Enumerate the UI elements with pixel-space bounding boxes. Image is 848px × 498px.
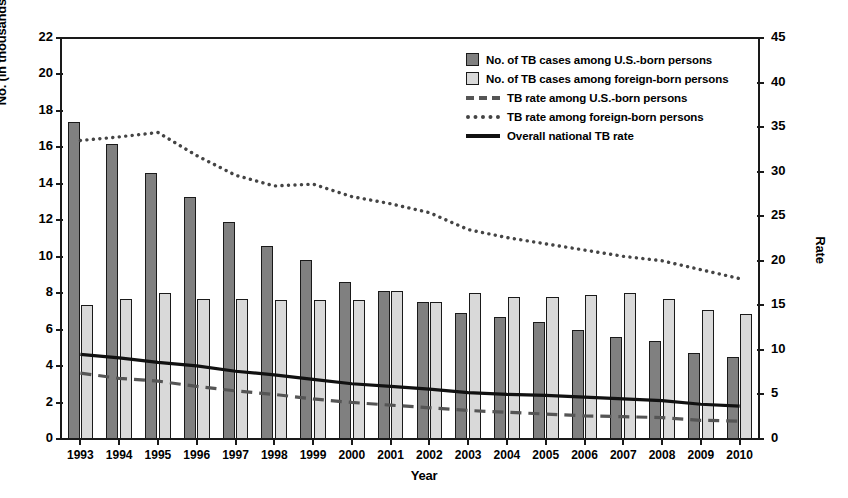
x-tick-mark bbox=[622, 438, 624, 445]
y-tick-mark-left bbox=[56, 365, 63, 367]
x-tick-mark bbox=[506, 438, 508, 445]
bar-foreign-born bbox=[663, 299, 675, 439]
y-tick-mark-right bbox=[757, 215, 764, 217]
legend-item-foreign-born-rate: TB rate among foreign-born persons bbox=[466, 107, 758, 126]
y-tick-label-right: 5 bbox=[771, 385, 805, 400]
y-tick-label-left: 22 bbox=[19, 29, 53, 44]
y-tick-label-right: 15 bbox=[771, 296, 805, 311]
bar-foreign-born bbox=[624, 293, 636, 439]
y-tick-label-right: 20 bbox=[771, 252, 805, 267]
y-tick-label-left: 20 bbox=[19, 65, 53, 80]
y-tick-label-left: 0 bbox=[19, 430, 53, 445]
y-tick-mark-right bbox=[757, 393, 764, 395]
y-tick-mark-left bbox=[56, 402, 63, 404]
bar-us-born bbox=[145, 173, 157, 439]
legend-label: TB rate among U.S.-born persons bbox=[507, 92, 687, 104]
x-tick-mark bbox=[739, 438, 741, 445]
legend-item-us-born-rate: TB rate among U.S.-born persons bbox=[466, 88, 758, 107]
bar-foreign-born bbox=[236, 299, 248, 439]
y-tick-label-left: 14 bbox=[19, 175, 53, 190]
chart-legend: No. of TB cases among U.S.-born persons … bbox=[466, 50, 758, 145]
y-axis-left-title: No. (in thousands) bbox=[0, 0, 9, 150]
y-tick-label-left: 2 bbox=[19, 394, 53, 409]
y-tick-label-right: 0 bbox=[771, 430, 805, 445]
y-tick-mark-right bbox=[757, 349, 764, 351]
bar-foreign-born bbox=[353, 300, 365, 439]
legend-label: TB rate among foreign-born persons bbox=[507, 111, 704, 123]
bar-foreign-born bbox=[585, 295, 597, 439]
y-tick-mark-left bbox=[56, 37, 63, 39]
y-tick-mark-left bbox=[56, 438, 63, 440]
bar-us-born bbox=[688, 353, 700, 439]
legend-swatch-dark-icon bbox=[466, 53, 479, 66]
y-tick-label-right: 30 bbox=[771, 163, 805, 178]
y-tick-label-left: 12 bbox=[19, 211, 53, 226]
y-tick-label-left: 6 bbox=[19, 321, 53, 336]
bar-us-born bbox=[494, 317, 506, 439]
x-tick-mark bbox=[661, 438, 663, 445]
x-tick-mark bbox=[351, 438, 353, 445]
bar-us-born bbox=[261, 246, 273, 439]
x-tick-label: 2010 bbox=[717, 448, 763, 462]
bar-foreign-born bbox=[314, 300, 326, 439]
tb-cases-and-rates-chart: No. (in thousands) Rate Year 22201816141… bbox=[0, 0, 848, 498]
bar-foreign-born bbox=[81, 305, 93, 439]
legend-item-overall-rate: Overall national TB rate bbox=[466, 126, 758, 145]
y-tick-label-right: 45 bbox=[771, 29, 805, 44]
y-tick-label-left: 4 bbox=[19, 357, 53, 372]
x-tick-mark bbox=[390, 438, 392, 445]
bar-us-born bbox=[455, 313, 467, 439]
y-tick-mark-left bbox=[56, 73, 63, 75]
y-tick-mark-right bbox=[757, 126, 764, 128]
y-tick-mark-left bbox=[56, 110, 63, 112]
bar-us-born bbox=[378, 291, 390, 439]
x-tick-mark bbox=[118, 438, 120, 445]
bar-us-born bbox=[339, 282, 351, 439]
legend-dotted-line-icon bbox=[466, 110, 500, 123]
y-tick-label-left: 18 bbox=[19, 102, 53, 117]
bar-foreign-born bbox=[702, 310, 714, 439]
y-tick-label-right: 25 bbox=[771, 207, 805, 222]
bar-us-born bbox=[223, 222, 235, 439]
x-tick-mark bbox=[312, 438, 314, 445]
legend-dashed-line-icon bbox=[466, 91, 500, 104]
bar-foreign-born bbox=[159, 293, 171, 439]
x-axis-title: Year bbox=[0, 468, 848, 483]
x-tick-mark bbox=[196, 438, 198, 445]
bar-foreign-born bbox=[508, 297, 520, 439]
x-tick-mark bbox=[700, 438, 702, 445]
y-tick-label-right: 35 bbox=[771, 118, 805, 133]
bar-us-born bbox=[106, 144, 118, 439]
bar-us-born bbox=[727, 357, 739, 439]
legend-label: No. of TB cases among foreign-born perso… bbox=[486, 73, 728, 85]
y-axis-right-title: Rate bbox=[813, 190, 828, 310]
legend-solid-line-icon bbox=[466, 129, 500, 142]
x-tick-mark bbox=[79, 438, 81, 445]
y-tick-mark-right bbox=[757, 171, 764, 173]
bar-us-born bbox=[68, 122, 80, 439]
bar-us-born bbox=[184, 197, 196, 439]
y-tick-mark-left bbox=[56, 292, 63, 294]
x-tick-mark bbox=[467, 438, 469, 445]
bar-foreign-born bbox=[430, 302, 442, 439]
y-tick-label-right: 40 bbox=[771, 74, 805, 89]
bar-us-born bbox=[572, 330, 584, 439]
bar-us-born bbox=[610, 337, 622, 439]
bar-foreign-born bbox=[740, 314, 752, 439]
y-tick-mark-right bbox=[757, 37, 764, 39]
legend-label: Overall national TB rate bbox=[507, 130, 634, 142]
y-tick-mark-right bbox=[757, 260, 764, 262]
bar-foreign-born bbox=[197, 299, 209, 439]
x-tick-mark bbox=[545, 438, 547, 445]
bar-us-born bbox=[300, 260, 312, 439]
y-tick-mark-left bbox=[56, 256, 63, 258]
y-tick-label-left: 8 bbox=[19, 284, 53, 299]
legend-label: No. of TB cases among U.S.-born persons bbox=[486, 54, 712, 66]
y-tick-label-right: 10 bbox=[771, 341, 805, 356]
y-tick-mark-left bbox=[56, 329, 63, 331]
y-tick-mark-left bbox=[56, 183, 63, 185]
y-tick-label-left: 16 bbox=[19, 138, 53, 153]
bar-foreign-born bbox=[546, 297, 558, 439]
x-tick-mark bbox=[428, 438, 430, 445]
legend-item-us-born-cases: No. of TB cases among U.S.-born persons bbox=[466, 50, 758, 69]
